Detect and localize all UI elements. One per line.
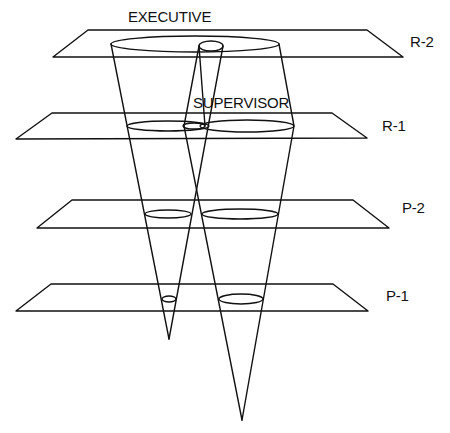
supervisor-label: SUPERVISOR <box>193 94 289 111</box>
hierarchy-cones-diagram: EXECUTIVE SUPERVISOR R-2 R-1 P-2 P-1 <box>0 0 450 433</box>
plane-label-r2: R-2 <box>410 33 434 50</box>
plane-p2 <box>37 200 389 228</box>
plane-label-p2: P-2 <box>402 199 425 216</box>
plane-r1 <box>16 113 367 139</box>
plane-label-r1: R-1 <box>382 117 406 134</box>
executive-cone <box>111 36 279 339</box>
plane-p1 <box>16 284 368 311</box>
plane-label-p1: P-1 <box>386 287 409 304</box>
plane-r2 <box>53 30 403 57</box>
executive-label: EXECUTIVE <box>128 8 211 25</box>
